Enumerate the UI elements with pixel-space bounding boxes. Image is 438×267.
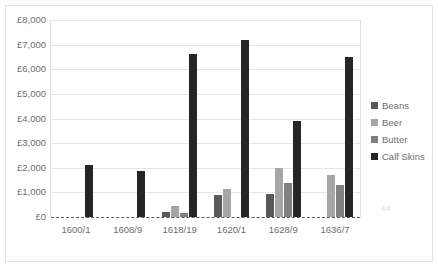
bar: [345, 57, 353, 217]
y-axis-tick-label: £5,000: [0, 89, 46, 99]
bar: [214, 195, 222, 217]
bar: [241, 40, 249, 217]
y-axis-tick-label: £4,000: [0, 114, 46, 124]
bar: [223, 189, 231, 217]
x-axis-tick-label: 1628/9: [257, 220, 309, 240]
artifact-mark: 4/4: [381, 205, 391, 212]
x-axis-tick-label: 1618/19: [154, 220, 206, 240]
bar: [293, 121, 301, 217]
bars-layer: [50, 20, 361, 217]
y-axis-tick-label: £7,000: [0, 40, 46, 50]
y-axis: £0£1,000£2,000£3,000£4,000£5,000£6,000£7…: [0, 20, 46, 217]
x-axis-tick-label: 1636/7: [309, 220, 361, 240]
bar: [137, 171, 145, 217]
bar-group: [50, 20, 102, 217]
legend-item: Butter: [371, 131, 431, 148]
legend-swatch-icon: [371, 153, 378, 160]
bar: [275, 168, 283, 217]
x-axis-tick-label: 1608/9: [102, 220, 154, 240]
bar: [336, 185, 344, 217]
bar: [180, 213, 188, 217]
bar-group: [205, 20, 257, 217]
y-axis-tick-label: £1,000: [0, 188, 46, 198]
chart-legend: BeansBeerButterCalf Skins: [371, 97, 431, 165]
legend-item: Beans: [371, 97, 431, 114]
legend-item-label: Beer: [382, 118, 402, 128]
bar: [162, 212, 170, 217]
legend-item-label: Butter: [382, 135, 407, 145]
bar: [327, 175, 335, 217]
bar: [284, 183, 292, 217]
bar-group: [309, 20, 361, 217]
y-axis-tick-label: £6,000: [0, 65, 46, 75]
legend-swatch-icon: [371, 119, 378, 126]
bar: [266, 194, 274, 217]
x-axis: 1600/11608/91618/191620/11628/91636/7: [50, 220, 361, 240]
legend-item: Calf Skins: [371, 148, 431, 165]
legend-item-label: Calf Skins: [382, 152, 425, 162]
y-axis-tick-label: £2,000: [0, 163, 46, 173]
y-axis-tick-label: £8,000: [0, 15, 46, 25]
legend-swatch-icon: [371, 136, 378, 143]
bar-group: [102, 20, 154, 217]
bar-group: [257, 20, 309, 217]
legend-item-label: Beans: [382, 101, 409, 111]
legend-swatch-icon: [371, 102, 378, 109]
y-axis-tick-label: £0: [0, 212, 46, 222]
chart-container: £0£1,000£2,000£3,000£4,000£5,000£6,000£7…: [0, 0, 438, 267]
x-axis-tick-label: 1600/1: [50, 220, 102, 240]
y-axis-tick-label: £3,000: [0, 138, 46, 148]
bar: [85, 165, 93, 217]
bar: [189, 54, 197, 217]
bar-group: [154, 20, 206, 217]
bar: [171, 206, 179, 217]
axis-baseline: [51, 217, 360, 218]
legend-item: Beer: [371, 114, 431, 131]
x-axis-tick-label: 1620/1: [205, 220, 257, 240]
